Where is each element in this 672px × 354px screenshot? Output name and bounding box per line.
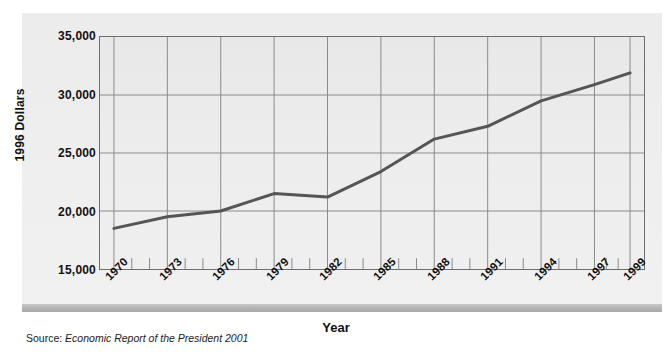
source-citation: Economic Report of the President 2001	[65, 332, 248, 344]
y-tick-label: 25,000	[26, 146, 96, 160]
y-axis-title: 1996 Dollars	[13, 65, 27, 185]
y-axis-tick-labels: 35,00030,00025,00020,00015,000	[28, 0, 96, 298]
plot-area	[99, 36, 645, 270]
y-tick-label: 20,000	[26, 205, 96, 219]
data-series-line	[114, 73, 630, 228]
plot-svg	[100, 37, 644, 269]
y-tick-label: 30,000	[26, 88, 96, 102]
y-tick-label: 35,000	[26, 29, 96, 43]
horizontal-gridlines	[100, 95, 644, 211]
y-tick-label: 15,000	[26, 263, 96, 277]
x-axis-tick-labels: 1970197319761979198219851988199119941997…	[99, 272, 645, 312]
source-note: Source: Economic Report of the President…	[26, 332, 248, 344]
source-prefix: Source:	[26, 332, 62, 344]
chart-figure: 1996 Dollars 35,00030,00025,00020,00015,…	[0, 0, 672, 354]
